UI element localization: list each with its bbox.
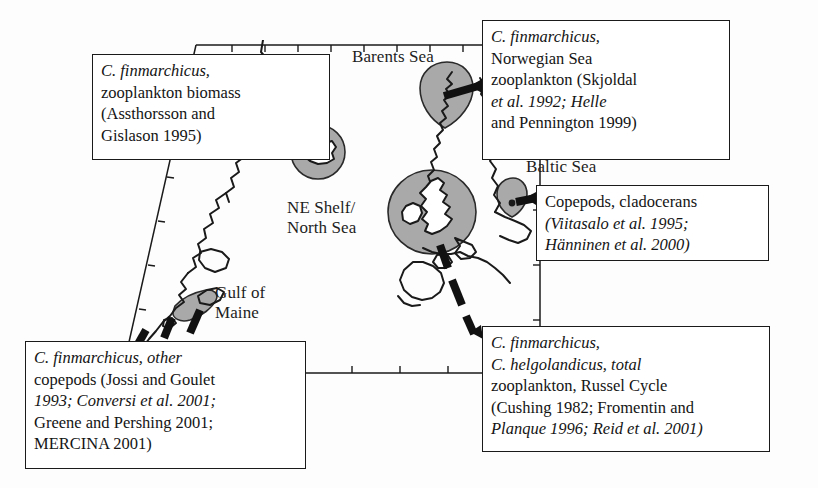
callout-line: 1993; Conversi et al. 2001;: [34, 390, 297, 412]
callout-line: Gislason 1995): [101, 125, 321, 147]
callout-line: (Cushing 1982; Fromentin and: [491, 397, 761, 419]
map-label-barents-sea: Barents Sea: [352, 47, 434, 67]
leader-russel-b: [452, 280, 462, 305]
callout-line: (Assthorsson and: [101, 103, 321, 125]
map-label-gulf-of-maine: Gulf of Maine: [215, 283, 265, 323]
callout-line: (Viitasalo et al. 1995;: [545, 213, 760, 235]
map-label-baltic-sea: Baltic Sea: [526, 157, 596, 177]
callout-line: C. finmarchicus,: [491, 332, 761, 354]
callout-line: copepods (Jossi and Goulet: [34, 369, 297, 391]
callout-line: C. finmarchicus,: [491, 26, 721, 48]
callout-line: Greene and Pershing 2001;: [34, 412, 297, 434]
callout-iceland-biomass: C. finmarchicus, zooplankton biomass (As…: [92, 54, 330, 160]
callout-line: and Pennington 1999): [491, 112, 721, 134]
callout-line: zooplankton biomass: [101, 82, 321, 104]
coast-ireland: [402, 203, 422, 224]
callout-line: C. finmarchicus, other: [34, 347, 297, 369]
figure-map: Barents Sea Iceland NE Shelf/ North Sea …: [0, 0, 818, 488]
callout-russel-cycle: C. finmarchicus, C. helgolandicus, total…: [482, 326, 770, 452]
callout-line: Planque 1996; Reid et al. 2001): [491, 418, 761, 440]
callout-line: C. finmarchicus,: [101, 60, 321, 82]
callout-line: MERCINA 2001): [34, 433, 297, 455]
map-label-ne-shelf-north-sea: NE Shelf/ North Sea: [287, 198, 356, 238]
callout-line: et al. 1992; Helle: [491, 91, 721, 113]
callout-gulf-of-maine: C. finmarchicus, other copepods (Jossi a…: [25, 341, 306, 469]
callout-line: Norwegian Sea: [491, 48, 721, 70]
coast-newfoundland: [199, 249, 229, 272]
callout-line: C. helgolandicus, total: [491, 354, 761, 376]
coast-labrador: [188, 193, 226, 273]
callout-norwegian-sea: C. finmarchicus, Norwegian Sea zooplankt…: [482, 20, 730, 160]
callout-line: zooplankton, Russel Cycle: [491, 375, 761, 397]
callout-line: Hänninen et al. 2000): [545, 234, 760, 256]
callout-line: Copepods, cladocerans: [545, 191, 760, 213]
callout-baltic-sea: Copepods, cladocerans (Viitasalo et al. …: [536, 185, 769, 261]
callout-line: zooplankton (Skjoldal: [491, 69, 721, 91]
baltic-marker-dot: [509, 200, 516, 207]
